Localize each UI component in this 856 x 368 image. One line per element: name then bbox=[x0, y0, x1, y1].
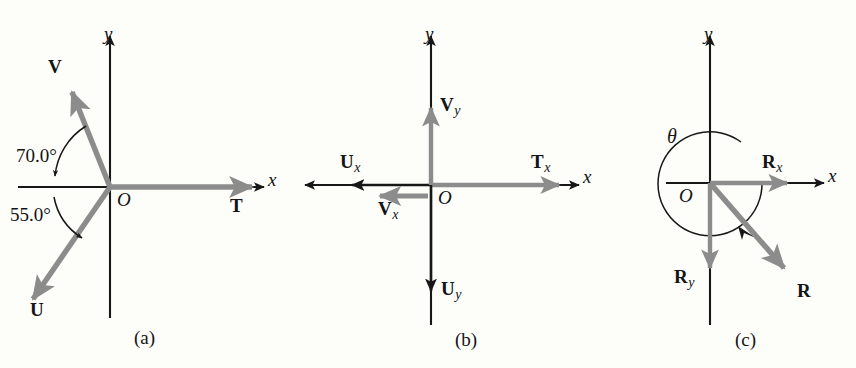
vector-Rx-label-text: R bbox=[762, 151, 776, 172]
vector-Tx-label: Tx bbox=[531, 152, 550, 175]
vector-Rx-label: Rx bbox=[762, 152, 782, 175]
panel-b-y-axis-label: y bbox=[425, 24, 433, 43]
vector-V-label-text: V bbox=[48, 56, 62, 77]
vector-Vx-label: Vx bbox=[378, 199, 398, 222]
panel-b-x-axis-label: x bbox=[583, 167, 591, 186]
panel-a-angle-70-label: 70.0° bbox=[16, 146, 57, 165]
panel-a-angle-70-arc bbox=[55, 126, 86, 176]
vector-V-arrow bbox=[72, 92, 110, 187]
vector-Uy-label: Uy bbox=[441, 279, 461, 302]
vector-Uy-label-text: U bbox=[441, 278, 455, 299]
vector-Tx-label-text: T bbox=[531, 151, 544, 172]
panel-a-angle-55-label: 55.0° bbox=[10, 205, 51, 224]
vector-Ux-label-text: U bbox=[340, 151, 354, 172]
panel-c-x-axis-label: x bbox=[828, 166, 836, 185]
vector-R-label-text: R bbox=[797, 280, 811, 301]
vector-U-label: U bbox=[30, 300, 44, 319]
vector-R-arrow bbox=[710, 183, 784, 268]
vector-Tx-label-subscript: x bbox=[544, 160, 550, 175]
figure-canvas bbox=[0, 0, 856, 368]
vector-Ry-label: Ry bbox=[674, 267, 694, 290]
vector-Ry-label-text: R bbox=[674, 266, 688, 287]
panel-c-y-axis-label: y bbox=[704, 24, 712, 43]
panel-a-y-axis-label: y bbox=[104, 24, 112, 43]
vector-components-figure: y x O V U T 70.0° 55.0° (a) y x O Vy Vx … bbox=[0, 0, 856, 368]
panel-b-caption: (b) bbox=[455, 330, 477, 349]
panel-a-x-axis-label: x bbox=[268, 170, 276, 189]
vector-Vy-label-subscript: y bbox=[454, 103, 460, 118]
vector-Ux-label: Ux bbox=[340, 152, 360, 175]
vector-V-label: V bbox=[48, 57, 62, 76]
vector-T-label: T bbox=[230, 196, 243, 215]
panel-c-caption: (c) bbox=[735, 330, 756, 349]
panel-a-caption: (a) bbox=[134, 328, 155, 347]
vector-Uy-label-subscript: y bbox=[455, 287, 461, 302]
panel-b-origin-label: O bbox=[438, 188, 452, 207]
vector-Ux-label-subscript: x bbox=[354, 160, 360, 175]
vector-U-label-text: U bbox=[30, 299, 44, 320]
panel-c-theta-label: θ bbox=[667, 126, 677, 146]
panel-c-origin-label: O bbox=[679, 186, 693, 205]
panel-a-origin-label: O bbox=[117, 190, 131, 209]
vector-Vx-label-text: V bbox=[378, 198, 392, 219]
vector-Vx-label-subscript: x bbox=[392, 207, 398, 222]
vector-Vy-label: Vy bbox=[440, 95, 460, 118]
vector-Rx-label-subscript: x bbox=[776, 160, 782, 175]
panel-a-graphics bbox=[18, 36, 264, 318]
vector-Vy-label-text: V bbox=[440, 94, 454, 115]
vector-T-label-text: T bbox=[230, 195, 243, 216]
vector-R-label: R bbox=[797, 281, 811, 300]
vector-Ry-label-subscript: y bbox=[688, 275, 694, 290]
